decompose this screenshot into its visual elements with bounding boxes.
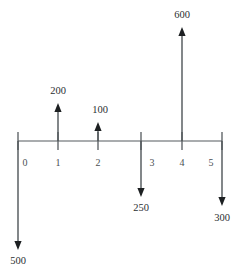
arrow-head-1-up	[54, 103, 61, 112]
cash-flow-amount-2: 100	[92, 104, 108, 115]
cash-flow-amount-4: 600	[174, 9, 190, 20]
cash-flow-amount-5: 300	[214, 212, 230, 223]
cash-flow-amount-1: 200	[50, 85, 66, 96]
period-label-4: 4	[180, 157, 185, 168]
cash-flow-amount-0: 500	[10, 255, 26, 266]
cash-flow-canvas: 012345 500200100250600300	[0, 0, 242, 278]
arrow-head-4-up	[178, 27, 185, 36]
cash-flow-diagram: 012345 500200100250600300	[0, 0, 242, 278]
period-label-3: 3	[150, 157, 155, 168]
period-label-2: 2	[96, 157, 101, 168]
period-label-1: 1	[56, 157, 61, 168]
time-axis-tick-labels: 012345	[23, 157, 214, 168]
cash-flow-value-labels: 500200100250600300	[10, 9, 230, 266]
period-label-0: 0	[23, 157, 28, 168]
arrow-head-0-down	[14, 241, 21, 250]
cash-flow-arrows	[14, 27, 225, 250]
period-label-5: 5	[209, 157, 214, 168]
arrow-head-5-down	[218, 197, 225, 206]
arrow-head-2-up	[94, 122, 101, 131]
arrow-head-3-down	[137, 188, 144, 197]
cash-flow-amount-3: 250	[133, 202, 149, 213]
